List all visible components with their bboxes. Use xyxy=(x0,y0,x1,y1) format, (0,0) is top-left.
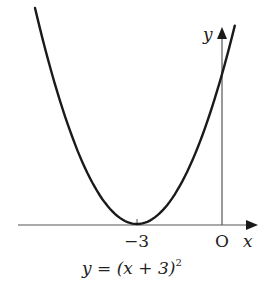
origin-label: O xyxy=(215,231,229,251)
x-axis-label: x xyxy=(243,231,253,251)
tick-label-minus-3: −3 xyxy=(124,231,149,251)
parabola-diagram: y x O −3 y = (x + 3)2 xyxy=(0,0,270,294)
equation-exponent: 2 xyxy=(175,257,181,268)
x-axis-arrow-icon xyxy=(246,220,258,230)
y-axis-label: y xyxy=(202,24,213,44)
equation-label: y = (x + 3)2 xyxy=(81,257,182,278)
equation-text: y = (x + 3) xyxy=(81,258,175,278)
y-axis-arrow-icon xyxy=(217,27,227,39)
